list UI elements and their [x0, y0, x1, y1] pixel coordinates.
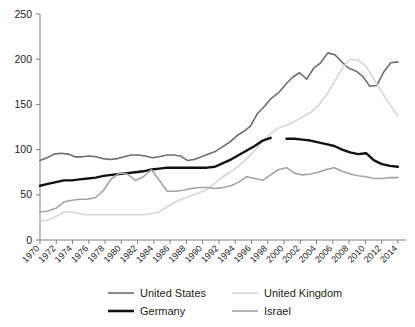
y-axis: 050100150200250	[14, 8, 40, 246]
x-tick-label: 1996	[232, 243, 253, 264]
x-tick-label: 1988	[167, 243, 188, 264]
x-tick-label: 1970	[20, 243, 41, 264]
y-tick-label: 100	[14, 143, 32, 155]
x-axis: 1970197219741976197819801982198419861988…	[20, 240, 406, 265]
x-tick-label: 2002	[280, 243, 301, 264]
x-tick-label: 2014	[378, 243, 399, 264]
chart-legend: United StatesUnited KingdomGermanyIsrael	[108, 287, 342, 317]
x-tick-label: 1974	[53, 243, 74, 264]
x-tick-label: 1986	[150, 243, 171, 264]
x-tick-label: 1980	[102, 243, 123, 264]
line-chart: 050100150200250 197019721974197619781980…	[0, 0, 415, 327]
x-tick-label: 1990	[183, 243, 204, 264]
series-line-israel	[40, 168, 398, 212]
y-tick-label: 50	[20, 188, 32, 200]
series-line-united-states	[40, 53, 398, 161]
y-tick-label: 0	[26, 234, 32, 246]
x-tick-label: 1978	[85, 243, 106, 264]
series-line-germany	[40, 138, 398, 186]
x-tick-label: 1994	[215, 243, 236, 264]
legend-label-united-states: United States	[140, 287, 207, 299]
x-tick-label: 1992	[199, 243, 220, 264]
x-tick-label: 1982	[118, 243, 139, 264]
legend-label-united-kingdom: United Kingdom	[264, 287, 342, 299]
x-tick-label: 1984	[134, 243, 155, 264]
x-tick-label: 1972	[36, 243, 57, 264]
x-tick-label: 2012	[362, 243, 383, 264]
y-tick-label: 250	[14, 8, 32, 20]
y-tick-label: 150	[14, 98, 32, 110]
legend-label-israel: Israel	[264, 305, 291, 317]
x-tick-label: 2004	[297, 243, 318, 264]
chart-canvas: 050100150200250 197019721974197619781980…	[0, 0, 415, 327]
x-tick-label: 1998	[248, 243, 269, 264]
y-tick-label: 200	[14, 53, 32, 65]
x-tick-label: 2010	[346, 243, 367, 264]
x-tick-label: 1976	[69, 243, 90, 264]
x-tick-label: 2008	[329, 243, 350, 264]
series-line-united-kingdom	[40, 59, 398, 221]
series-lines	[40, 53, 398, 221]
x-tick-label: 2006	[313, 243, 334, 264]
x-tick-label: 2000	[264, 243, 285, 264]
legend-label-germany: Germany	[140, 305, 186, 317]
